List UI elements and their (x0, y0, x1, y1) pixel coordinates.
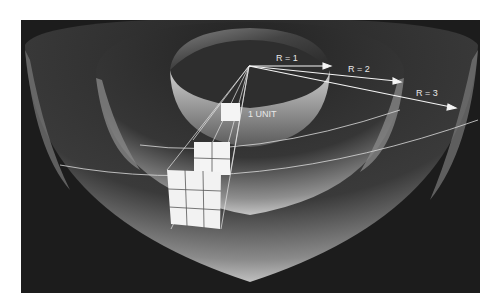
label-r1: R = 1 (276, 53, 298, 63)
label-r3: R = 3 (416, 88, 438, 98)
grid-2x2 (194, 142, 230, 175)
inverse-square-diagram: R = 1 R = 2 R = 3 1 UNIT (0, 0, 496, 308)
grid-3x3 (167, 170, 221, 229)
label-r2: R = 2 (348, 64, 370, 74)
unit-square (221, 103, 240, 121)
label-unit: 1 UNIT (248, 109, 277, 119)
